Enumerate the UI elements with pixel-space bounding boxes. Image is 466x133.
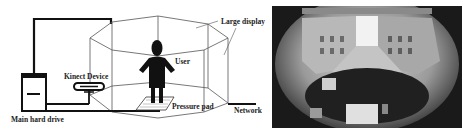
kinect-device (74, 83, 104, 104)
desk-box (310, 108, 322, 118)
label-network: Network (234, 106, 263, 115)
label-pressure-pad: Pressure pad (172, 102, 214, 111)
frame-top (302, 8, 432, 14)
desk-monitor (322, 78, 336, 90)
main-hard-drive (22, 74, 46, 111)
cable-drive-to-display (34, 19, 111, 74)
desk-panel (382, 104, 388, 114)
user-figure (139, 40, 175, 103)
leader-large-display-2 (224, 28, 236, 55)
desk-screen (346, 104, 378, 124)
label-main-hard-drive: Main hard drive (11, 115, 65, 124)
sky (356, 16, 378, 46)
leader-large-display-1 (196, 21, 218, 28)
fisheye-photo (272, 6, 462, 128)
system-diagram: Large display User Kinect Device Pressur… (0, 0, 270, 133)
label-user: User (175, 57, 191, 66)
label-large-display: Large display (221, 17, 265, 26)
label-kinect-device: Kinect Device (64, 72, 109, 81)
